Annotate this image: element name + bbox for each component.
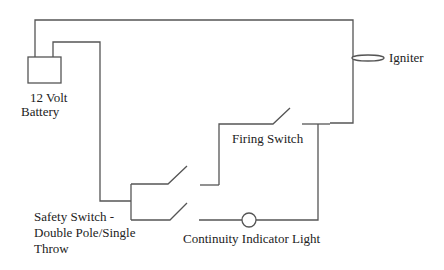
indicator-light-label: Continuity Indicator Light [183, 231, 321, 246]
indicator-light-icon [242, 213, 256, 227]
wire-battery-to-safety [53, 42, 131, 201]
battery-label: 12 Volt [30, 90, 68, 105]
safety-switch-label-2: Double Pole/Single [34, 225, 136, 240]
wire-top-loop [35, 20, 353, 123]
safety-switch [131, 166, 242, 220]
igniter-label: Igniter [389, 50, 424, 65]
circuit-diagram: 12 Volt Battery Igniter Safety Switch - … [0, 0, 444, 270]
igniter-icon [352, 55, 384, 61]
safety-switch-label-3: Throw [34, 241, 69, 256]
firing-switch [219, 108, 330, 185]
battery-label-2: Battery [21, 104, 60, 119]
safety-switch-label: Safety Switch - [34, 209, 114, 224]
battery-icon [28, 57, 61, 83]
firing-switch-label: Firing Switch [232, 131, 304, 146]
